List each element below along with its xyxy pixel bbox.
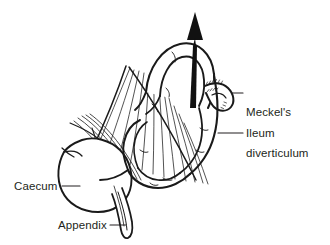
label-meckels-line1: Meckel's (246, 106, 309, 120)
illustration-page: Meckel's diverticulum Ileum Caecum Appen… (0, 0, 330, 245)
label-appendix: Appendix (58, 219, 107, 233)
label-caecum: Caecum (14, 180, 57, 194)
label-ileum: Ileum (246, 127, 275, 141)
ileum-right-descending-inner (180, 108, 202, 173)
label-meckels-line2: diverticulum (246, 147, 309, 161)
ileum-left-limb (135, 92, 146, 110)
appendix-outline (112, 188, 132, 238)
